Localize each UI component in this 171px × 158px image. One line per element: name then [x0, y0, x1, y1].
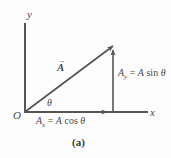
- x-comp-subscript: x: [42, 121, 45, 129]
- vector-a-symbol: A: [57, 61, 64, 73]
- y-comp-subscript: y: [124, 73, 127, 81]
- y-comp-magnitude: A: [138, 67, 144, 78]
- x-comp-function: cos: [64, 115, 77, 126]
- x-comp-equals: =: [48, 115, 54, 126]
- x-axis-label: x: [150, 107, 155, 118]
- x-comp-magnitude: A: [56, 115, 62, 126]
- y-comp-equals: =: [130, 67, 136, 78]
- y-comp-function: sin: [146, 67, 158, 78]
- origin-label: O: [13, 110, 21, 121]
- vector-a-label: → A: [57, 59, 65, 73]
- y-axis-label: y: [27, 9, 32, 20]
- y-component-label: Ay = A sin θ: [118, 68, 166, 81]
- figure-caption: (a): [72, 136, 85, 148]
- x-component-label: Ax = A cos θ: [36, 116, 85, 129]
- x-comp-angle: θ: [80, 115, 85, 126]
- vector-components-figure: y x O → A θ Ax = A cos θ Ay = A sin θ (a…: [0, 0, 171, 158]
- theta-angle-label: θ: [47, 98, 52, 108]
- vector-a-arrow: [26, 46, 114, 112]
- y-comp-angle: θ: [161, 67, 166, 78]
